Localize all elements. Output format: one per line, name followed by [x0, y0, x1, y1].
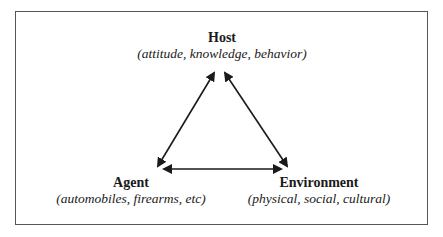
- host-environment-arrow: [225, 73, 287, 166]
- agent-host-arrow: [158, 73, 214, 166]
- arrows-layer: [0, 0, 443, 237]
